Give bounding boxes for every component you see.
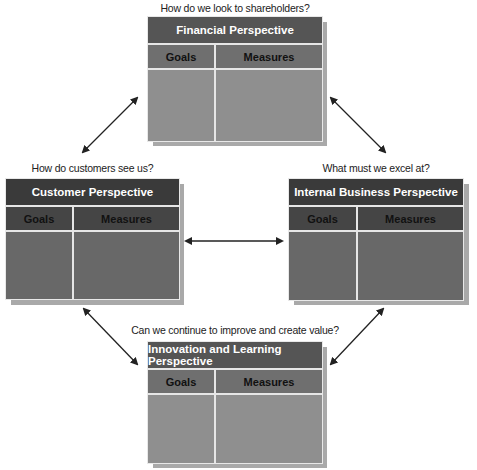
customer-question: How do customers see us? [5, 162, 180, 174]
financial-measures-header: Measures [216, 45, 322, 68]
internal-header-row: Goals Measures [289, 207, 463, 232]
internal-business-perspective-box: Internal Business Perspective Goals Meas… [288, 178, 464, 301]
internal-measures-header: Measures [358, 207, 463, 230]
financial-goals-cell [148, 70, 216, 141]
internal-body [289, 232, 463, 300]
internal-question: What must we excel at? [288, 162, 464, 174]
financial-header-row: Goals Measures [148, 45, 322, 70]
financial-measures-cell [216, 70, 322, 141]
internal-goals-cell [289, 232, 358, 300]
customer-goals-header: Goals [6, 207, 74, 230]
customer-header-row: Goals Measures [6, 207, 179, 232]
arrow-financial-customer [83, 98, 137, 152]
customer-measures-header: Measures [74, 207, 179, 230]
customer-goals-cell [6, 232, 74, 299]
arrow-financial-internal [331, 98, 385, 152]
arrow-internal-innovation [331, 309, 383, 364]
innovation-title: Innovation and Learning Perspective [148, 342, 322, 370]
customer-title: Customer Perspective [6, 179, 179, 207]
innovation-measures-header: Measures [216, 370, 322, 393]
internal-title: Internal Business Perspective [289, 179, 463, 207]
financial-perspective-box: Financial Perspective Goals Measures [147, 16, 323, 142]
innovation-header-row: Goals Measures [148, 370, 322, 395]
customer-measures-cell [74, 232, 179, 299]
internal-goals-header: Goals [289, 207, 358, 230]
financial-body [148, 70, 322, 141]
financial-goals-header: Goals [148, 45, 216, 68]
innovation-goals-header: Goals [148, 370, 216, 393]
financial-question: How do we look to shareholders? [147, 2, 323, 14]
innovation-question: Can we continue to improve and create va… [107, 324, 363, 336]
customer-body [6, 232, 179, 299]
innovation-learning-perspective-box: Innovation and Learning Perspective Goal… [147, 341, 323, 464]
innovation-body [148, 395, 322, 463]
innovation-measures-cell [216, 395, 322, 463]
internal-measures-cell [358, 232, 463, 300]
financial-title: Financial Perspective [148, 17, 322, 45]
customer-perspective-box: Customer Perspective Goals Measures [5, 178, 180, 300]
innovation-goals-cell [148, 395, 216, 463]
arrow-customer-innovation [84, 309, 137, 364]
